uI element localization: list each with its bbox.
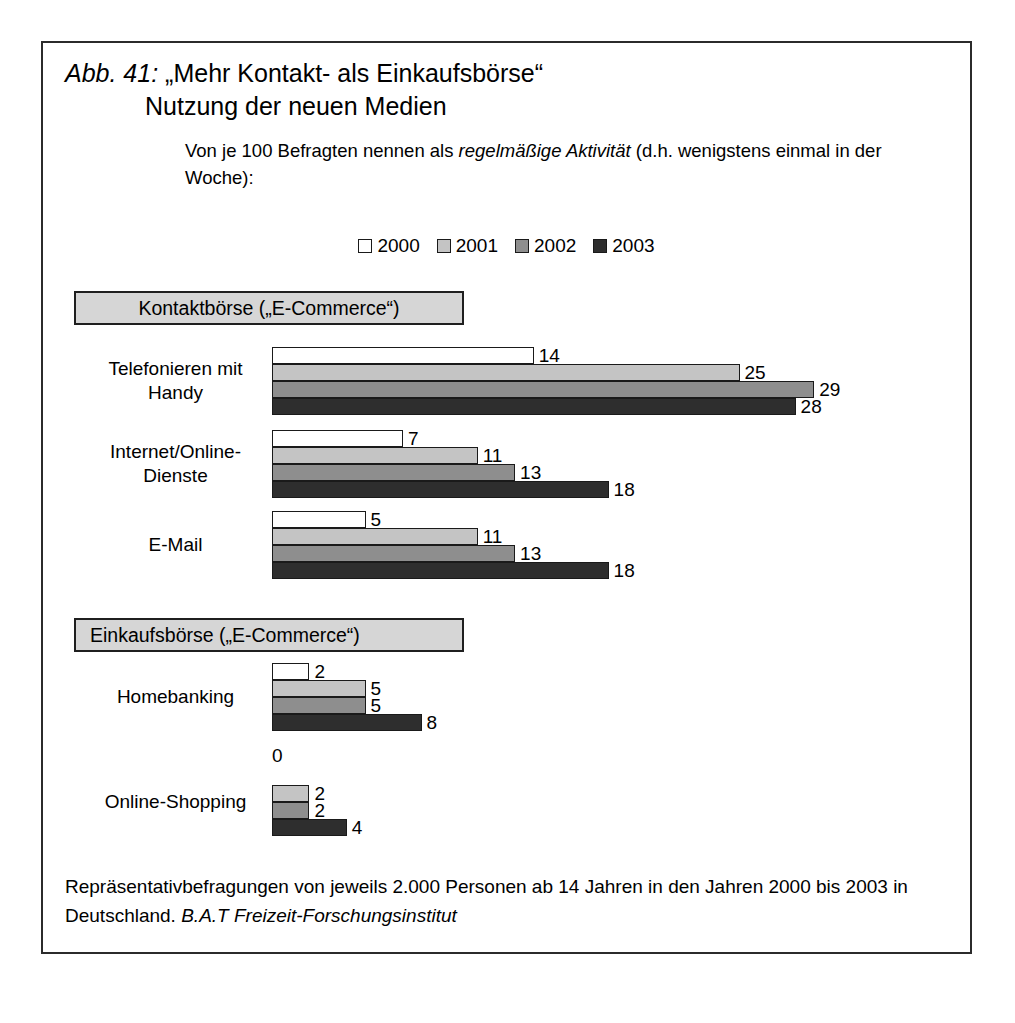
bar-2001[interactable]: 11 <box>272 528 478 545</box>
bar-2000[interactable]: 2 <box>272 663 309 680</box>
bar-value-label: 18 <box>614 479 635 501</box>
bar-stack: 2558 <box>272 663 970 731</box>
bar-fill <box>272 785 309 802</box>
bar-group: Online-Shopping0224 <box>43 768 970 836</box>
figure-frame: Abb. 41: „Mehr Kontakt- als Einkaufsbörs… <box>41 41 972 954</box>
bar-fill <box>272 511 366 528</box>
bar-2003[interactable]: 18 <box>272 562 609 579</box>
bar-group: Homebanking2558 <box>43 663 970 731</box>
bar-2000[interactable]: 14 <box>272 347 534 364</box>
bar-value-label: 8 <box>427 712 438 734</box>
bar-fill <box>272 464 515 481</box>
bar-group-label: Online-Shopping <box>83 790 268 814</box>
bar-fill <box>272 481 609 498</box>
bar-value-label: 18 <box>614 560 635 582</box>
bar-2003[interactable]: 28 <box>272 398 796 415</box>
bar-fill <box>272 381 814 398</box>
bar-fill <box>272 714 422 731</box>
bar-fill <box>272 430 403 447</box>
bar-fill <box>272 447 478 464</box>
bar-group-label-line1: Internet/Online- <box>83 440 268 464</box>
bar-2001[interactable]: 5 <box>272 680 366 697</box>
bar-2002[interactable]: 5 <box>272 697 366 714</box>
bar-stack: 0224 <box>272 768 970 836</box>
bar-group: Telefonieren mitHandy14252928 <box>43 347 970 415</box>
bar-fill <box>272 364 740 381</box>
bar-group-label: E-Mail <box>83 533 268 557</box>
bar-fill <box>272 347 534 364</box>
source-note: Repräsentativbefragungen von jeweils 2.0… <box>65 872 948 930</box>
bar-group-label-line1: Telefonieren mit <box>83 357 268 381</box>
bar-group-label-line1: Online-Shopping <box>83 790 268 814</box>
bar-2000[interactable]: 5 <box>272 511 366 528</box>
bar-group-label-line1: E-Mail <box>83 533 268 557</box>
bar-fill <box>272 680 366 697</box>
bar-2002[interactable]: 29 <box>272 381 814 398</box>
plot-area: Telefonieren mitHandy14252928Internet/On… <box>43 43 970 952</box>
bar-fill <box>272 802 309 819</box>
bar-group-label-line1: Homebanking <box>83 685 268 709</box>
bar-2003[interactable]: 4 <box>272 819 347 836</box>
bar-group: Internet/Online-Dienste7111318 <box>43 430 970 498</box>
bar-2001[interactable]: 11 <box>272 447 478 464</box>
bar-2002[interactable]: 2 <box>272 802 309 819</box>
bar-fill <box>272 398 796 415</box>
bar-group: E-Mail5111318 <box>43 511 970 579</box>
bar-value-label: 4 <box>352 817 363 839</box>
source-institute: B.A.T Freizeit-Forschungsinstitut <box>181 905 457 926</box>
bar-fill <box>272 528 478 545</box>
bar-fill <box>272 545 515 562</box>
bar-value-label: 28 <box>801 396 822 418</box>
bar-fill <box>272 663 309 680</box>
bar-fill <box>272 819 347 836</box>
bar-group-label: Telefonieren mitHandy <box>83 357 268 405</box>
bar-fill <box>272 697 366 714</box>
bar-stack: 7111318 <box>272 430 970 498</box>
bar-2003[interactable]: 8 <box>272 714 422 731</box>
bar-group-label: Homebanking <box>83 685 268 709</box>
bar-group-label-line2: Handy <box>83 381 268 405</box>
bar-2000[interactable]: 7 <box>272 430 403 447</box>
bar-group-label: Internet/Online-Dienste <box>83 440 268 488</box>
bar-fill <box>272 562 609 579</box>
bar-2003[interactable]: 18 <box>272 481 609 498</box>
bar-2001[interactable]: 2 <box>272 785 309 802</box>
bar-group-label-line2: Dienste <box>83 464 268 488</box>
bar-2001[interactable]: 25 <box>272 364 740 381</box>
bar-stack: 5111318 <box>272 511 970 579</box>
bar-value-label: 0 <box>272 745 283 767</box>
bar-stack: 14252928 <box>272 347 970 415</box>
bar-value-label: 29 <box>819 379 840 401</box>
bar-2002[interactable]: 13 <box>272 464 515 481</box>
bar-2002[interactable]: 13 <box>272 545 515 562</box>
